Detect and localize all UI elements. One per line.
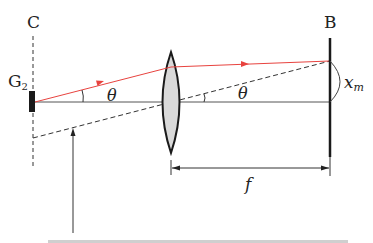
refracted-ray (171, 61, 330, 67)
label-c: C (27, 12, 40, 32)
label-theta-left: θ (107, 86, 117, 105)
label-b: B (324, 12, 337, 32)
incident-ray (35, 67, 171, 102)
label-theta-right: θ (238, 84, 248, 103)
optics-diagram: C G2 θ θ B xm f (0, 0, 373, 243)
ray-arrow-icon-2 (241, 61, 249, 67)
xm-brace-arc (330, 61, 340, 102)
focal-arrow-left-icon (172, 166, 180, 171)
label-f: f (243, 174, 254, 194)
grating-g2 (29, 91, 35, 112)
dashed-chief-ray (33, 61, 330, 138)
angle-arc-right (204, 94, 205, 102)
pointer-arrow-head-icon (71, 128, 76, 136)
focal-arrow-right-icon (321, 166, 329, 171)
angle-arc-left (82, 90, 83, 102)
label-g2: G2 (8, 71, 28, 92)
label-xm: xm (344, 72, 364, 94)
